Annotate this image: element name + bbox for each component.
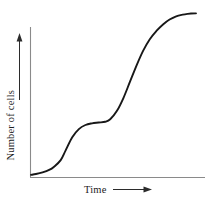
arrow-right-icon [144, 187, 153, 193]
growth-curve [31, 13, 196, 175]
plot-area [0, 0, 213, 203]
arrow-up-icon [17, 33, 23, 42]
growth-curve-figure: Time Number of cells [0, 0, 213, 203]
y-axis-label: Number of cells [6, 83, 17, 167]
x-axis-label: Time [84, 185, 107, 196]
